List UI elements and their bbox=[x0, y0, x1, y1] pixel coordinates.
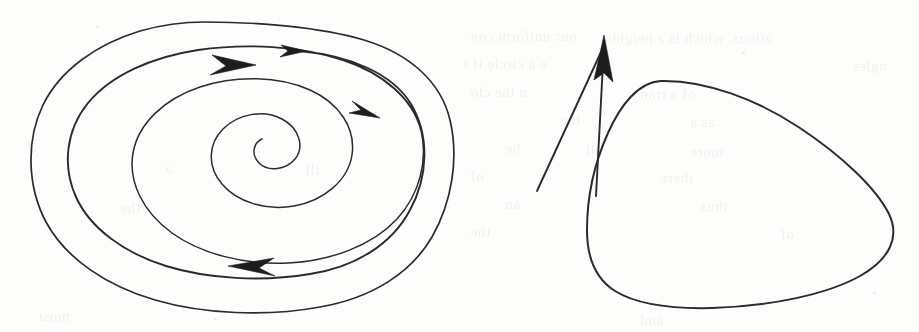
arrowhead-spiral-right-icon bbox=[349, 101, 380, 118]
left-figure-spiral-approaching-limit-cycle bbox=[31, 22, 454, 313]
right-figure-closed-orbit-with-transversal-arrow bbox=[537, 35, 893, 308]
transversal-arrow-shaft bbox=[537, 52, 601, 191]
spiral-inner-whorl bbox=[132, 79, 423, 264]
spiral-trajectory bbox=[68, 46, 425, 278]
figure-page: our uniform conations, which is a neighb… bbox=[0, 0, 919, 332]
arrowhead-spiral-bottom-icon bbox=[228, 258, 275, 276]
transversal-arrowhead-icon bbox=[594, 35, 613, 82]
closed-orbit-curve bbox=[587, 81, 893, 308]
figure-artwork bbox=[0, 0, 919, 332]
arrowhead-outer-top-icon bbox=[280, 45, 307, 57]
arrowhead-spiral-top-icon bbox=[210, 55, 256, 75]
